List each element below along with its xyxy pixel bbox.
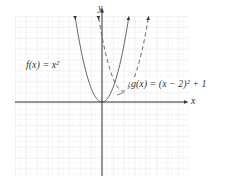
g-label: g(x) = (x − 2)² + 1 xyxy=(131,78,206,89)
x-axis-label: x xyxy=(191,95,195,106)
y-axis-label: y xyxy=(98,2,102,13)
f-label: f(x) = x² xyxy=(26,59,59,70)
